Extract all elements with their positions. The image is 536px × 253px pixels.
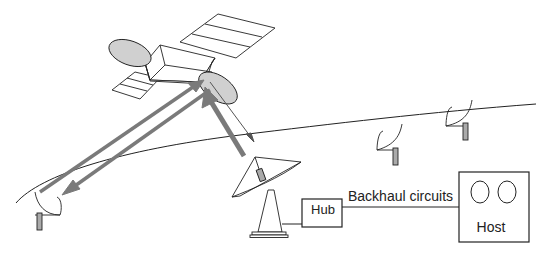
vsat-middle-icon: [377, 124, 402, 165]
vsat-link-arrows: [40, 80, 210, 195]
satellite-icon: [105, 14, 275, 110]
host-label: Host: [456, 219, 526, 235]
vsat-left-icon: [35, 192, 61, 230]
backhaul-label: Backhaul circuits: [348, 188, 453, 204]
hub-antenna-icon: [232, 157, 301, 238]
satellite-network-diagram: [0, 0, 536, 253]
vsat-right-icon: [446, 100, 472, 140]
hub-label: Hub: [304, 202, 342, 217]
